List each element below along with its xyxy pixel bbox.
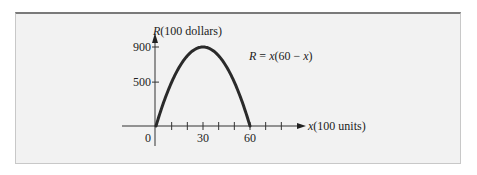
y-axis-label: R(100 dollars) xyxy=(152,24,222,38)
x-tick-labels: 03060 xyxy=(145,131,256,145)
y-tick-label: 900 xyxy=(133,40,151,54)
x-tick-label: 30 xyxy=(197,131,209,145)
x-tick-label: 60 xyxy=(244,131,256,145)
x-tick-label: 0 xyxy=(145,131,151,145)
x-axis-arrow xyxy=(297,123,306,129)
y-tick-labels: 500900 xyxy=(133,40,151,89)
curve-annotation: R = x(60 − x) xyxy=(248,49,313,63)
y-tick-label: 500 xyxy=(133,75,151,89)
x-axis-label: x(100 units) xyxy=(307,119,366,133)
series-line-revenue xyxy=(156,47,250,126)
chart: 03060 500900 R(100 dollars) x(100 units)… xyxy=(0,0,477,175)
